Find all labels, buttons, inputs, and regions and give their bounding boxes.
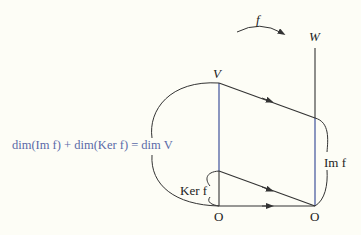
label-v: V <box>213 67 221 80</box>
label-origin-left: O <box>214 210 223 223</box>
label-im-f: Im f <box>324 156 346 169</box>
ker-brace <box>207 171 219 206</box>
label-ker-f: Ker f <box>180 184 207 197</box>
map-line-top <box>219 83 315 118</box>
equation-label: dim(Im f) + dim(Ker f) = dim V <box>12 139 173 152</box>
diagram-canvas <box>0 0 361 235</box>
map-arrow-f <box>237 26 282 33</box>
label-w: W <box>309 30 320 43</box>
label-origin-right: O <box>310 210 319 223</box>
label-f: f <box>256 13 260 26</box>
